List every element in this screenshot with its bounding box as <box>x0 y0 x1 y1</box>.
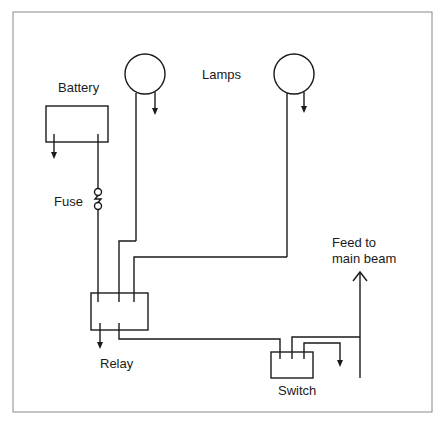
fuse-link <box>95 196 101 203</box>
switch-label: Switch <box>278 383 316 398</box>
wiring-diagram <box>0 0 446 429</box>
lamp-1-circle <box>125 54 165 94</box>
feed-label-line2: main beam <box>332 251 396 266</box>
relay-to-switch-wire <box>119 323 280 359</box>
ground-arrow-icon <box>152 108 158 115</box>
ground-arrow-icon <box>301 106 307 113</box>
battery-label: Battery <box>58 80 99 95</box>
relay-label: Relay <box>100 356 133 371</box>
ground-arrow-icon <box>51 152 57 159</box>
fuse-terminal-top <box>95 189 102 196</box>
switch-to-feed-wire <box>292 337 360 359</box>
feed-label-line1: Feed to <box>332 235 376 250</box>
ground-arrow-icon <box>97 342 103 349</box>
lamps-label: Lamps <box>202 67 241 82</box>
lamp-2-to-relay-wire <box>134 257 287 302</box>
fuse-terminal-bottom <box>95 203 102 210</box>
lamp-2-circle <box>274 54 314 94</box>
fuse-label: Fuse <box>54 194 83 209</box>
switch-ground-wire <box>304 343 340 363</box>
ground-arrow-icon <box>337 360 343 367</box>
